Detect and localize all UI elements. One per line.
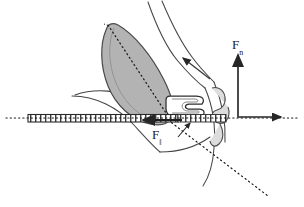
joint-condyle [166, 96, 204, 116]
normal-force-subscript: n [239, 48, 243, 57]
parallel-force-subscript: ‖ [159, 138, 161, 147]
parallel-force-label: F‖ [152, 126, 161, 145]
parallel-force-pointer [178, 123, 190, 137]
muscle-force-vector [183, 58, 210, 79]
mechanics-diagram-figure: Fn F‖ [0, 0, 304, 207]
normal-force-label: Fn [232, 36, 243, 55]
diagram-canvas [0, 0, 304, 207]
muscle-body [102, 24, 173, 125]
